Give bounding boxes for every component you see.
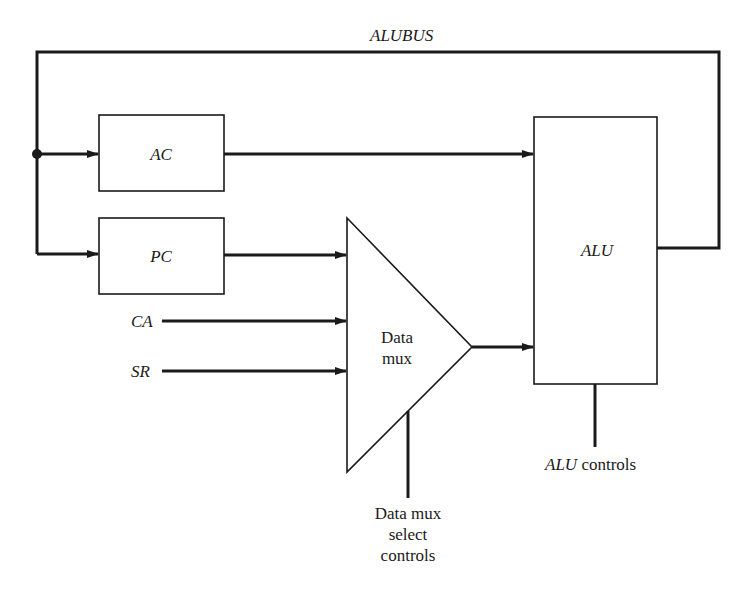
mux-select-label-2: select <box>389 525 428 544</box>
mux-select-label-3: controls <box>381 546 436 565</box>
alu-datapath-diagram: ALUBUS AC PC CA SR Data mux Data mux sel… <box>0 0 747 590</box>
ca-label: CA <box>131 312 153 331</box>
pc-label: PC <box>149 247 172 266</box>
pc-register: PC <box>99 218 224 294</box>
alu-block: ALU <box>534 117 657 384</box>
mux-label-line1: Data <box>381 328 414 347</box>
ac-register: AC <box>99 115 224 191</box>
mux-select-label-1: Data mux <box>375 504 442 523</box>
sr-label: SR <box>131 362 151 381</box>
alu-controls-label: ALU controls <box>544 455 636 474</box>
alubus-label: ALUBUS <box>369 26 434 45</box>
mux-label-line2: mux <box>382 349 413 368</box>
alu-label: ALU <box>580 241 615 260</box>
ac-label: AC <box>149 145 172 164</box>
